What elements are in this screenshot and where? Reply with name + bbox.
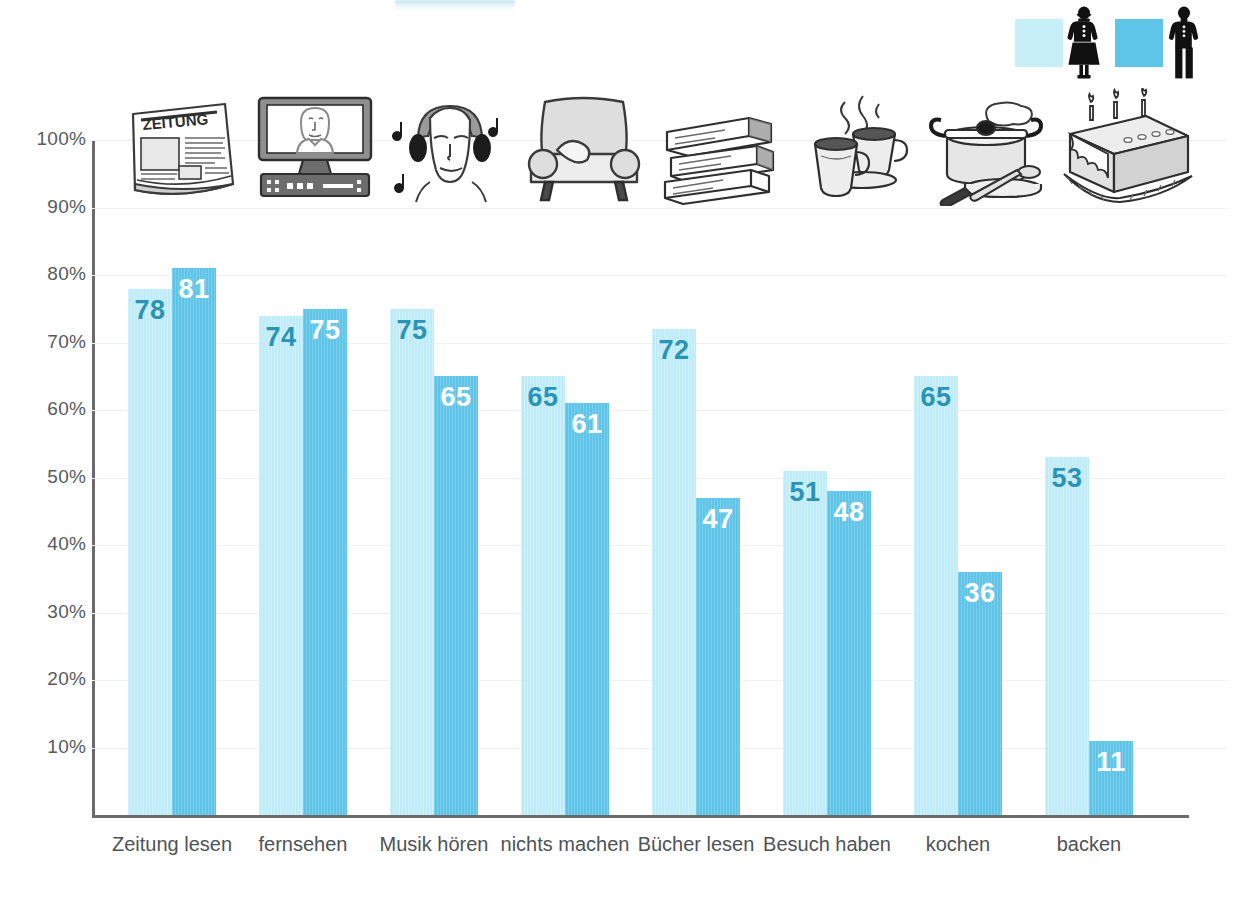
- bar-value-label: 65: [521, 382, 565, 413]
- bar-value-label: 65: [914, 382, 958, 413]
- book-stack-icon: [653, 88, 783, 206]
- armchair-icon: [519, 88, 649, 206]
- bar-value-label: 51: [783, 477, 827, 508]
- legend-swatch-female: [1015, 19, 1063, 67]
- category-label: nichts machen: [501, 833, 630, 856]
- bar-male[interactable]: 65: [434, 376, 478, 815]
- bar-value-label: 61: [565, 409, 609, 440]
- bar-female[interactable]: 65: [521, 376, 565, 815]
- coffee-cups-icon: [787, 88, 917, 206]
- category-label: kochen: [926, 833, 991, 856]
- bar-value-label: 78: [128, 295, 172, 326]
- y-axis-tick-label: 20%: [47, 668, 86, 690]
- cropped-title-remnant: [395, 0, 515, 10]
- male-pictogram-icon: [1167, 6, 1201, 80]
- legend-entry-male[interactable]: [1115, 6, 1201, 80]
- category-label: Bücher lesen: [638, 833, 755, 856]
- y-axis-tick-label: 80%: [47, 263, 86, 285]
- y-axis-tick-label: 40%: [47, 533, 86, 555]
- bar-female[interactable]: 75: [390, 309, 434, 815]
- bar-value-label: 47: [696, 504, 740, 535]
- bar-value-label: 74: [259, 322, 303, 353]
- category-label: Besuch haben: [763, 833, 891, 856]
- cooking-pot-icon: [911, 88, 1061, 206]
- bar-male[interactable]: 75: [303, 309, 347, 815]
- bar-male[interactable]: 48: [827, 491, 871, 815]
- y-axis-tick-label: 30%: [47, 601, 86, 623]
- category-label: fernsehen: [259, 833, 348, 856]
- y-axis-tick-label: 50%: [47, 466, 86, 488]
- newspaper-icon: ZEITUNG: [121, 88, 241, 206]
- bar-value-label: 75: [390, 315, 434, 346]
- bar-female[interactable]: 72: [652, 329, 696, 815]
- bar-value-label: 48: [827, 497, 871, 528]
- y-axis-tick-label: 70%: [47, 331, 86, 353]
- bar-male[interactable]: 47: [696, 498, 740, 815]
- bar-value-label: 72: [652, 335, 696, 366]
- category-label: Zeitung lesen: [112, 833, 232, 856]
- y-axis-tick-label: 90%: [47, 196, 86, 218]
- bar-value-label: 53: [1045, 463, 1089, 494]
- bar-male[interactable]: 11: [1089, 741, 1133, 815]
- bar-female[interactable]: 74: [259, 316, 303, 816]
- bar-value-label: 65: [434, 382, 478, 413]
- legend-swatch-male: [1115, 19, 1163, 67]
- bar-female[interactable]: 53: [1045, 457, 1089, 815]
- gridline: [92, 275, 1227, 276]
- bar-female[interactable]: 51: [783, 471, 827, 815]
- y-axis-tick-label: 10%: [47, 736, 86, 758]
- legend-entry-female[interactable]: [1015, 6, 1101, 80]
- female-pictogram-icon: [1067, 6, 1101, 80]
- bar-female[interactable]: 65: [914, 376, 958, 815]
- bar-female[interactable]: 78: [128, 289, 172, 816]
- category-label: backen: [1057, 833, 1122, 856]
- category-label: Musik hören: [380, 833, 489, 856]
- bar-male[interactable]: 81: [172, 268, 216, 815]
- x-axis-line: [92, 815, 1189, 818]
- bar-value-label: 81: [172, 274, 216, 305]
- television-icon: [245, 88, 385, 206]
- bar-value-label: 11: [1089, 747, 1133, 778]
- cake-icon: [1056, 88, 1196, 206]
- y-axis-line: [92, 140, 95, 818]
- bar-value-label: 75: [303, 315, 347, 346]
- bar-male[interactable]: 61: [565, 403, 609, 815]
- bar-value-label: 36: [958, 578, 1002, 609]
- bar-male[interactable]: 36: [958, 572, 1002, 815]
- headphones-listener-icon: [390, 88, 510, 206]
- gridline: [92, 208, 1227, 209]
- y-axis-tick-label: 60%: [47, 398, 86, 420]
- legend: [1015, 6, 1201, 80]
- y-axis-tick-label: 100%: [37, 128, 86, 150]
